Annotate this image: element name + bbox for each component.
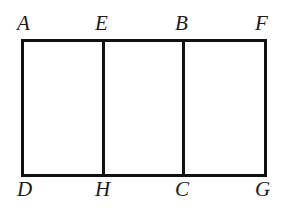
vertex-label-B: B xyxy=(175,13,188,34)
figure-canvas xyxy=(0,0,284,210)
vertex-label-G: G xyxy=(255,179,270,200)
vertex-label-E: E xyxy=(95,13,108,34)
vertex-label-F: F xyxy=(255,13,268,34)
vertex-label-A: A xyxy=(17,13,30,34)
vertex-label-C: C xyxy=(175,179,189,200)
vertex-label-H: H xyxy=(95,179,110,200)
vertex-label-D: D xyxy=(17,179,32,200)
geometry-figure: A E B F D H C G xyxy=(0,0,284,210)
outer-rectangle xyxy=(22,40,265,175)
